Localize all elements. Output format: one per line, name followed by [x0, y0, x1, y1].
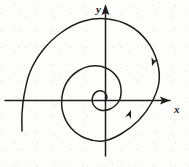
y-axis-label: y	[94, 3, 101, 15]
axes-group: y x	[5, 3, 180, 156]
flow-arrowhead-inner	[125, 110, 131, 119]
x-axis-label: x	[173, 103, 180, 115]
spiral-trajectory-group	[22, 19, 159, 142]
flow-direction-arrowheads	[125, 57, 158, 119]
spiral-trajectory-curve	[22, 19, 159, 142]
figure-container: y x	[0, 0, 189, 167]
phase-portrait-svg: y x	[0, 0, 189, 167]
